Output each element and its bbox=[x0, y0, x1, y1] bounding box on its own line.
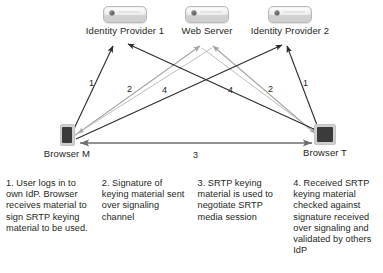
server-led-icon bbox=[109, 10, 115, 16]
caption-step-2: 2. Signature of keying material sent ove… bbox=[96, 178, 192, 223]
server-icon bbox=[185, 6, 229, 23]
node-label-identity-provider-2: Identity Provider 2 bbox=[238, 25, 342, 37]
wire-4-browsert-idp1 bbox=[128, 44, 318, 131]
wire-1-browsert-idp2 bbox=[287, 46, 320, 133]
smartphone-icon bbox=[314, 124, 336, 145]
node-label-browser-t: Browser T bbox=[288, 147, 362, 159]
wire-2-webserver-browsert bbox=[202, 48, 316, 133]
caption-row: 1. User logs in to own IdP. Browser rece… bbox=[0, 178, 383, 273]
server-icon bbox=[103, 6, 147, 23]
server-led-icon bbox=[191, 10, 197, 16]
server-led-icon bbox=[274, 10, 280, 16]
server-slot bbox=[118, 11, 140, 13]
node-label-browser-m: Browser M bbox=[28, 148, 106, 160]
node-identity-provider-2[interactable]: Identity Provider 2 bbox=[238, 6, 342, 37]
wire-label-2-left: 2 bbox=[127, 84, 132, 94]
wire-label-1-right: 1 bbox=[303, 78, 308, 88]
smartphone-icon bbox=[60, 124, 75, 146]
smartphone-screen bbox=[62, 127, 72, 143]
wire-label-2-right: 2 bbox=[268, 84, 273, 94]
caption-step-3: 3. SRTP keying material is used to negot… bbox=[192, 178, 288, 223]
network-diagram: Identity Provider 1 Web Server Identity … bbox=[0, 0, 383, 175]
wire-label-4-right: 4 bbox=[228, 85, 233, 95]
wire-2-webserver-browserm bbox=[78, 48, 212, 133]
node-browser-m[interactable]: Browser M bbox=[28, 124, 106, 160]
wire-label-3-middle: 3 bbox=[193, 150, 198, 160]
server-icon bbox=[268, 6, 312, 23]
diagram-page: Identity Provider 1 Web Server Identity … bbox=[0, 0, 383, 273]
smartphone-screen bbox=[317, 127, 333, 142]
wire-label-4-left: 4 bbox=[162, 85, 167, 95]
caption-step-1: 1. User logs in to own IdP. Browser rece… bbox=[0, 178, 96, 234]
server-slot bbox=[200, 11, 222, 13]
caption-step-4: 4. Received SRTP keying material checked… bbox=[287, 178, 383, 256]
wire-1-browserm-idp1 bbox=[72, 46, 113, 133]
wire-label-1-left: 1 bbox=[89, 78, 94, 88]
node-browser-t[interactable]: Browser T bbox=[288, 124, 362, 159]
server-slot bbox=[283, 11, 305, 13]
